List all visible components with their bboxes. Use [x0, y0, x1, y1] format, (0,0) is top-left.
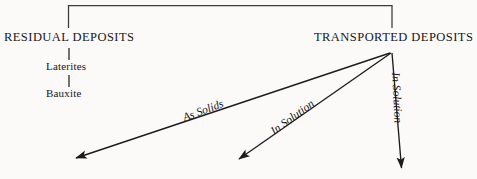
diagram-canvas: RESIDUAL DEPOSITS Laterites Bauxite TRAN…	[0, 0, 477, 179]
node-laterites: Laterites	[46, 60, 86, 72]
clipped-caption-row	[0, 170, 477, 179]
node-residual-deposits: RESIDUAL DEPOSITS	[4, 30, 134, 45]
bracket-connector	[69, 6, 393, 29]
node-transported-deposits: TRANSPORTED DEPOSITS	[314, 30, 473, 45]
edge-label-in-solution-right: In Solution	[390, 72, 405, 123]
node-bauxite: Bauxite	[46, 87, 82, 99]
arrow-as-solids	[76, 53, 390, 158]
